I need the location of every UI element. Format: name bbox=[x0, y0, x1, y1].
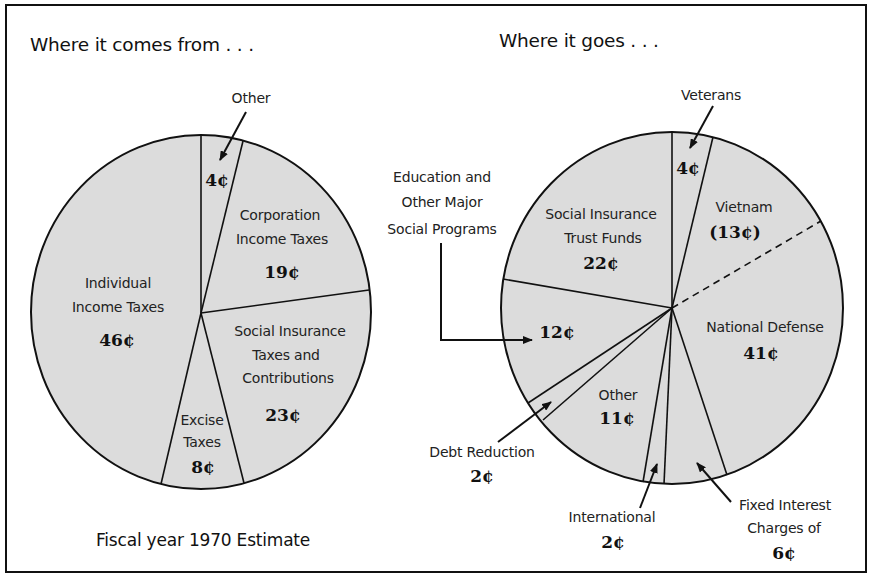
defense-label: National Defense bbox=[706, 320, 823, 334]
trust-funds-label-line1: Social Insurance bbox=[545, 207, 656, 221]
trust-funds-value: 22¢ bbox=[583, 255, 619, 272]
trust-funds-label-line2: Trust Funds bbox=[564, 231, 641, 245]
corporation-label-line2: Income Taxes bbox=[236, 232, 328, 246]
individual-value: 46¢ bbox=[99, 332, 135, 349]
spending-other-label: Other bbox=[599, 388, 638, 402]
individual-label-line2: Income Taxes bbox=[72, 300, 164, 314]
international-label: International bbox=[569, 510, 656, 524]
social-tax-label-line2: Taxes and bbox=[252, 348, 320, 362]
interest-label-line2: Charges of bbox=[747, 521, 820, 535]
education-value: 12¢ bbox=[539, 324, 575, 341]
social-tax-label-line1: Social Insurance bbox=[234, 324, 345, 338]
interest-label-line1: Fixed Interest bbox=[739, 498, 831, 512]
corporation-value: 19¢ bbox=[264, 264, 300, 281]
spending-chart-title: Where it goes . . . bbox=[499, 32, 659, 51]
vietnam-value: (13¢) bbox=[709, 224, 761, 241]
social-tax-label-line3: Contributions bbox=[242, 371, 334, 385]
budget-dollar-chart: Where it comes from . . . Other 4¢ Corpo… bbox=[0, 0, 882, 579]
debt-reduction-label: Debt Reduction bbox=[429, 445, 534, 459]
social-tax-value: 23¢ bbox=[265, 407, 301, 424]
education-label-line1: Education and bbox=[393, 170, 491, 184]
interest-value: 6¢ bbox=[772, 545, 796, 562]
vietnam-label: Vietnam bbox=[716, 200, 773, 214]
excise-value: 8¢ bbox=[191, 459, 215, 476]
income-other-value: 4¢ bbox=[205, 172, 229, 189]
income-chart-title: Where it comes from . . . bbox=[30, 36, 254, 55]
education-label-line2: Other Major bbox=[402, 195, 483, 209]
education-label-line3: Social Programs bbox=[387, 222, 496, 236]
excise-label-line2: Taxes bbox=[183, 435, 221, 449]
income-other-label: Other bbox=[232, 91, 271, 105]
excise-label-line1: Excise bbox=[180, 413, 223, 427]
corporation-label-line1: Corporation bbox=[240, 208, 321, 222]
veterans-value: 4¢ bbox=[676, 160, 700, 177]
individual-label-line1: Individual bbox=[85, 276, 151, 290]
footer-note: Fiscal year 1970 Estimate bbox=[96, 532, 310, 549]
veterans-label: Veterans bbox=[681, 88, 741, 102]
debt-reduction-value: 2¢ bbox=[470, 468, 494, 485]
defense-value: 41¢ bbox=[743, 345, 779, 362]
international-value: 2¢ bbox=[601, 534, 625, 551]
spending-other-value: 11¢ bbox=[599, 410, 635, 427]
